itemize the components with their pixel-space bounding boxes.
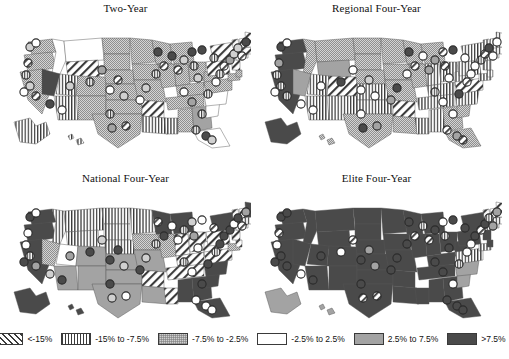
msa-marker: [198, 280, 206, 288]
state-tx: [343, 114, 393, 148]
msa-marker: [373, 292, 381, 300]
state-ms: [164, 118, 178, 134]
state-id: [52, 209, 66, 244]
msa-marker: [142, 84, 150, 92]
msa-marker: [467, 70, 475, 78]
msa-marker: [455, 260, 463, 268]
state-id: [303, 209, 317, 244]
state-tx: [343, 284, 393, 318]
legend-swatch-vertical-stripe: [61, 333, 91, 345]
msa-marker: [86, 248, 94, 256]
msa-marker: [20, 258, 28, 266]
msa-marker: [461, 224, 469, 232]
state-polygons: [14, 32, 251, 148]
msa-marker: [204, 90, 212, 98]
msa-marker: [154, 218, 162, 226]
msa-marker: [212, 78, 220, 86]
msa-marker: [337, 78, 345, 86]
msa-marker: [32, 209, 40, 217]
msa-marker: [425, 236, 433, 244]
state-mt: [315, 208, 355, 232]
msa-marker: [154, 48, 162, 56]
msa-marker: [108, 294, 116, 302]
msa-marker: [357, 86, 365, 94]
msa-marker: [405, 48, 413, 56]
state-ak: [14, 288, 50, 314]
msa-marker: [190, 232, 198, 240]
legend-item: -15% to -7.5%: [61, 333, 152, 345]
msa-marker: [441, 232, 449, 240]
msa-marker: [120, 262, 128, 270]
msa-marker: [22, 71, 30, 79]
msa-marker: [431, 88, 439, 96]
msa-marker: [405, 218, 413, 226]
msa-marker: [317, 82, 325, 90]
msa-marker: [46, 270, 54, 278]
state-ak: [265, 118, 301, 144]
msa-marker: [108, 124, 116, 132]
msa-marker: [180, 258, 188, 266]
msa-marker: [238, 222, 246, 230]
msa-marker: [443, 126, 451, 134]
state-hi: [319, 134, 335, 145]
msa-marker: [122, 292, 130, 300]
msa-marker: [32, 262, 40, 270]
state-polygons: [265, 32, 502, 148]
msa-marker: [271, 88, 279, 96]
msa-marker: [463, 78, 471, 86]
state-polygons: [14, 202, 251, 318]
msa-marker: [174, 236, 182, 244]
msa-marker: [86, 78, 94, 86]
msa-marker: [98, 66, 106, 74]
msa-marker: [160, 62, 168, 70]
legend-label: <-15%: [27, 334, 52, 344]
legend-item: -7.5% to -2.5%: [158, 333, 251, 345]
panel-regional-four-year: Regional Four-Year: [251, 2, 502, 165]
msa-marker: [283, 92, 291, 100]
msa-marker: [180, 226, 188, 234]
msa-marker: [359, 124, 367, 132]
msa-marker: [180, 56, 188, 64]
msa-marker: [22, 241, 30, 249]
msa-marker: [445, 74, 453, 82]
panel-two-year: Two-Year: [0, 2, 251, 165]
msa-marker: [275, 229, 283, 237]
msa-marker: [359, 294, 367, 302]
msa-marker: [192, 126, 200, 134]
msa-marker: [242, 38, 250, 46]
msa-marker: [168, 222, 176, 230]
state-sd: [355, 54, 381, 70]
msa-marker: [24, 229, 32, 237]
msa-marker: [106, 256, 114, 264]
msa-marker: [309, 276, 317, 284]
msa-marker: [411, 62, 419, 70]
state-hi: [68, 304, 84, 315]
msa-marker: [106, 280, 114, 288]
state-ms: [415, 288, 429, 304]
msa-marker: [493, 38, 501, 46]
msa-marker: [459, 306, 467, 314]
msa-marker: [120, 92, 128, 100]
msa-marker: [114, 246, 122, 254]
state-sd: [104, 54, 130, 70]
msa-marker: [449, 46, 457, 54]
msa-marker: [242, 208, 250, 216]
msa-marker: [58, 276, 66, 284]
msa-marker: [463, 248, 471, 256]
panel-elite-four-year: Elite Four-Year: [251, 172, 502, 335]
msa-marker: [371, 92, 379, 100]
state-mt: [315, 38, 355, 62]
msa-marker: [283, 262, 291, 270]
msa-marker: [387, 266, 395, 274]
msa-marker: [317, 252, 325, 260]
state-ar: [142, 270, 164, 288]
legend-swatch-light-stipple: [158, 333, 188, 345]
msa-marker: [349, 236, 357, 244]
msa-marker: [273, 71, 281, 79]
msa-marker: [419, 52, 427, 60]
msa-marker: [46, 100, 54, 108]
msa-marker: [283, 39, 291, 47]
msa-marker: [283, 209, 291, 217]
msa-marker: [188, 218, 196, 226]
msa-marker: [349, 66, 357, 74]
